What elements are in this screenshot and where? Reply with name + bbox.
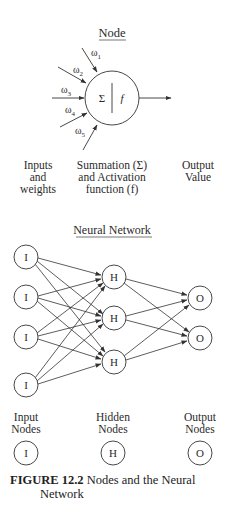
label-summation-2: and Activation bbox=[78, 171, 146, 183]
svg-text:I: I bbox=[24, 331, 28, 343]
figure-caption: FIGURE 12.2 Nodes and the Neural Network bbox=[10, 473, 225, 501]
arrow-w5 bbox=[83, 125, 97, 150]
svg-text:H: H bbox=[110, 271, 118, 283]
svg-text:I: I bbox=[24, 447, 28, 459]
svg-text:O: O bbox=[196, 447, 204, 459]
func-symbol: f bbox=[120, 92, 125, 104]
output-layer: O O bbox=[188, 286, 212, 350]
input-node: I bbox=[14, 285, 38, 309]
label-output-2: Value bbox=[185, 171, 211, 183]
legend-output-node: O bbox=[188, 441, 212, 465]
hidden-output-connections bbox=[124, 279, 189, 360]
output-node: O bbox=[188, 326, 212, 350]
label-summation-3: function (f) bbox=[86, 183, 139, 196]
network-title: Neural Network bbox=[73, 223, 151, 237]
weight-label-3: ω3 bbox=[61, 84, 72, 98]
legend-hidden-node: H bbox=[101, 441, 125, 465]
svg-text:H: H bbox=[109, 447, 117, 459]
svg-text:I: I bbox=[24, 379, 28, 391]
input-node: I bbox=[14, 325, 38, 349]
weight-label-4: ω4 bbox=[65, 104, 76, 118]
hidden-node: H bbox=[102, 306, 126, 330]
node-title: Node bbox=[98, 26, 126, 40]
hidden-node: H bbox=[102, 265, 126, 289]
weight-label-5: ω5 bbox=[75, 125, 86, 139]
weight-labels: ω1 ω2 ω3 ω4 ω5 bbox=[61, 47, 102, 139]
svg-text:H: H bbox=[110, 312, 118, 324]
svg-text:I: I bbox=[24, 291, 28, 303]
caption-label: FIGURE 12.2 bbox=[10, 473, 84, 487]
output-node: O bbox=[188, 286, 212, 310]
svg-text:O: O bbox=[196, 292, 204, 304]
weight-label-2: ω2 bbox=[73, 64, 84, 78]
input-node: I bbox=[14, 245, 38, 269]
caption-text-continued: Network bbox=[10, 487, 225, 501]
legend-input-label-2: Nodes bbox=[11, 423, 41, 435]
svg-text:O: O bbox=[196, 332, 204, 344]
input-hidden-connections bbox=[35, 258, 105, 384]
svg-text:H: H bbox=[110, 356, 118, 368]
node-labels: Inputs and weights Summation (Σ) and Act… bbox=[20, 159, 215, 196]
legend-hidden-label-1: Hidden bbox=[96, 411, 130, 423]
legend-output-label-2: Nodes bbox=[185, 423, 215, 435]
input-node: I bbox=[14, 373, 38, 397]
legend-hidden-label-2: Nodes bbox=[98, 423, 128, 435]
label-inputs-3: weights bbox=[20, 183, 56, 196]
network-diagram: Neural Network I bbox=[11, 223, 216, 465]
svg-text:I: I bbox=[24, 251, 28, 263]
weight-arrows bbox=[52, 48, 171, 150]
figure-canvas: Node ω1 ω2 ω3 ω4 ω5 Σ f Inputs and wei bbox=[0, 0, 231, 518]
caption-text: Nodes and the Neural bbox=[87, 473, 196, 487]
label-inputs-2: and bbox=[30, 171, 47, 183]
node-legend: Input Nodes Hidden Nodes Output Nodes I … bbox=[11, 411, 216, 465]
hidden-node: H bbox=[102, 350, 126, 374]
legend-input-node: I bbox=[14, 441, 38, 465]
hidden-layer: H H H bbox=[102, 265, 126, 374]
sum-symbol: Σ bbox=[99, 92, 105, 104]
input-layer: I I I I bbox=[14, 245, 38, 397]
node-diagram: Node ω1 ω2 ω3 ω4 ω5 Σ f Inputs and wei bbox=[20, 26, 215, 196]
weight-label-1: ω1 bbox=[91, 47, 102, 61]
